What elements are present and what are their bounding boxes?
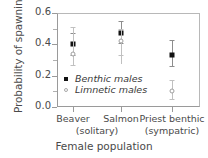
data-point-limnetic-salmon (119, 39, 124, 44)
error-bar-limnetic-salmon (121, 29, 122, 64)
y-tick-label-0: 0.0 (29, 100, 51, 111)
x-axis-sublabel-sympatric: (sympatric) (145, 125, 200, 136)
legend-label-benthic: Benthic males (75, 73, 143, 84)
x-tick-priest (172, 107, 173, 112)
y-tick-label-2: 0.4 (29, 37, 51, 48)
error-cap-bottom-limnetic-beaver (71, 65, 76, 66)
x-tick-beaver (73, 107, 74, 112)
y-tick-label-1: 0.2 (29, 69, 51, 80)
error-cap-top-limnetic-beaver (71, 27, 76, 28)
error-cap-top-limnetic-salmon (119, 29, 124, 30)
x-tick-salmon (121, 107, 122, 112)
legend-label-limnetic: Limnetic males (75, 84, 147, 95)
error-cap-bottom-limnetic-priest (170, 99, 175, 100)
error-bar-limnetic-beaver (73, 27, 74, 66)
y-axis-title: Probability of spawning (12, 9, 26, 113)
error-cap-top-benthic-salmon (119, 21, 124, 22)
open-circle-marker-icon (64, 88, 68, 92)
x-axis-sublabel-solitary: (solitary) (76, 125, 119, 136)
error-cap-top-benthic-priest (170, 40, 175, 41)
chart-figure: Probability of spawning 0.0 0.2 0.4 0.6 (0, 0, 208, 158)
error-cap-top-limnetic-priest (170, 80, 175, 81)
x-axis-label-beaver: Beaver (56, 113, 90, 124)
y-tick-label-3: 0.6 (29, 6, 51, 17)
data-point-limnetic-priest (170, 89, 175, 94)
error-cap-bottom-limnetic-salmon (119, 55, 124, 56)
data-point-benthic-priest (170, 53, 175, 58)
x-axis-label-priest: Priest benthic (139, 113, 204, 124)
filled-square-marker-icon (64, 77, 68, 81)
data-point-limnetic-beaver (71, 51, 76, 56)
y-tick-major-0 (52, 107, 57, 108)
x-axis-label-salmon: Salmon (103, 113, 139, 124)
x-axis-title: Female population (0, 140, 208, 152)
error-cap-bottom-benthic-priest (170, 66, 175, 67)
